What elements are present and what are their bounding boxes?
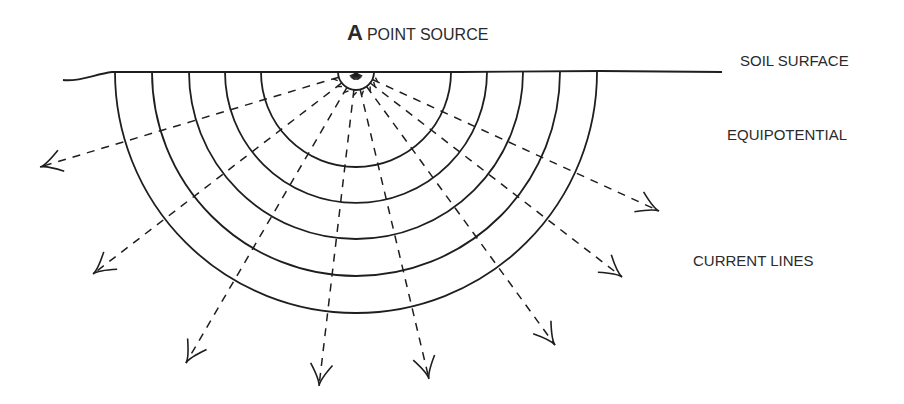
equipotential-lines <box>115 72 597 313</box>
soil-surface-line <box>63 71 722 80</box>
equipotential-arc <box>189 72 523 239</box>
source-tick <box>333 79 338 81</box>
current-line <box>93 83 342 274</box>
current-lines-label: CURRENT LINES <box>693 252 814 269</box>
source-tick <box>362 91 364 96</box>
arrowhead-icon <box>311 363 333 386</box>
current-lines <box>40 77 659 386</box>
point-source-marker <box>338 72 374 90</box>
equipotential-arc <box>152 72 560 276</box>
arrowhead-icon <box>533 321 555 345</box>
equipotential-arc <box>225 72 487 203</box>
title-letter: A <box>347 20 363 45</box>
title-text: POINT SOURCE <box>367 26 489 43</box>
equipotential-arc <box>261 72 451 167</box>
arrowhead-icon <box>93 252 117 274</box>
arrowhead-icon <box>186 338 207 363</box>
current-line <box>370 83 622 277</box>
soil-surface <box>63 71 722 80</box>
arrowhead-icon <box>598 255 622 277</box>
current-line <box>186 88 347 363</box>
equipotential-label: EQUIPOTENTIAL <box>727 126 847 143</box>
soil-surface-label: SOIL SURFACE <box>740 52 849 69</box>
current-line <box>367 87 555 345</box>
diagram-title: APOINT SOURCE <box>347 20 488 46</box>
